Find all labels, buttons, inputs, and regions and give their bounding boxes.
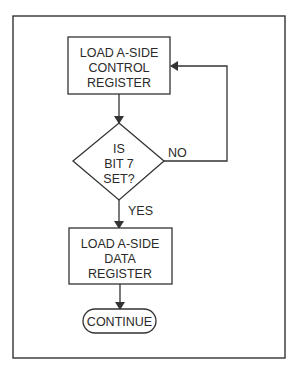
node-load-data-register: LOAD A-SIDE DATA REGISTER xyxy=(69,228,172,284)
node-label-line: REGISTER xyxy=(88,267,152,281)
edge-label-no: NO xyxy=(168,146,187,160)
node-decision-bit7: IS BIT 7 SET? xyxy=(73,123,164,200)
terminator-label: CONTINUE xyxy=(87,315,152,329)
node-label-line: CONTROL xyxy=(88,61,149,75)
node-label-line: REGISTER xyxy=(87,76,151,90)
node-continue: CONTINUE xyxy=(83,309,156,333)
node-label-line: BIT 7 xyxy=(104,157,134,171)
flowchart: LOAD A-SIDE CONTROL REGISTER IS BIT 7 SE… xyxy=(0,0,297,368)
node-label-line: LOAD A-SIDE xyxy=(81,237,160,251)
node-label-line: IS xyxy=(113,142,125,156)
node-load-control-register: LOAD A-SIDE CONTROL REGISTER xyxy=(68,37,170,94)
node-label-line: SET? xyxy=(103,172,134,186)
edge-label-yes: YES xyxy=(128,204,153,218)
node-label-line: LOAD A-SIDE xyxy=(80,46,159,60)
node-label-line: DATA xyxy=(104,252,136,266)
